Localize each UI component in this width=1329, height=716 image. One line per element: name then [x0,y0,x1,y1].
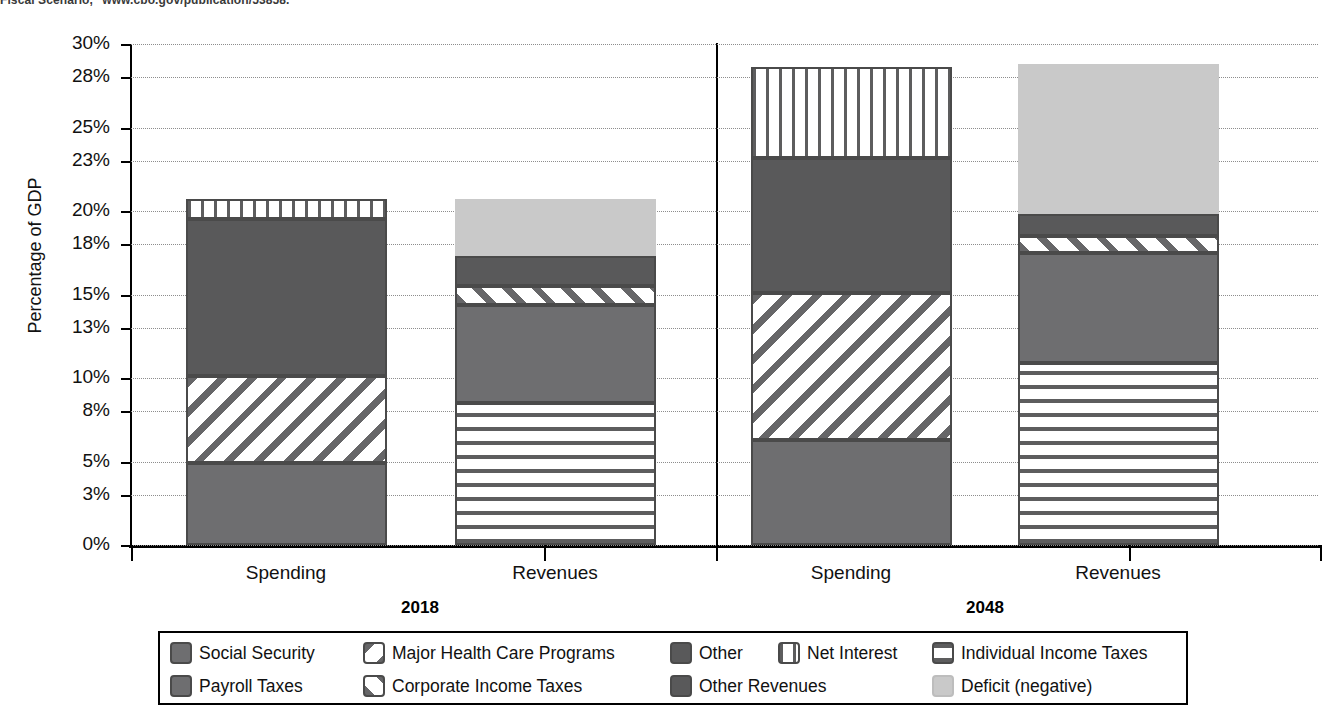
legend-row-2: Payroll TaxesCorporate Income TaxesOther… [170,671,1176,704]
legend-label: Other [699,643,743,664]
solid-medium-gray-swatch [170,675,192,697]
y-tick [121,545,131,547]
y-tick [121,44,131,46]
x-tick [1320,545,1322,561]
legend-item[interactable]: Deficit (negative) [932,675,1092,697]
light-gray-swatch [932,675,954,697]
bar-segment[interactable] [455,403,656,545]
x-group-label: 2018 [340,598,500,618]
stacked-bar[interactable] [186,44,387,545]
x-tick [1129,545,1131,561]
bar-segment[interactable] [186,199,387,219]
bar-segment[interactable] [455,256,656,286]
legend-item[interactable]: Other Revenues [670,675,826,697]
bar-segment[interactable] [1018,64,1219,214]
y-tick-label: 25% [20,116,110,138]
bar-segment[interactable] [751,158,952,293]
y-tick [121,77,131,79]
bar-segment[interactable] [186,463,387,545]
legend-item[interactable]: Individual Income Taxes [932,642,1147,664]
bar-segment[interactable] [751,440,952,545]
y-tick [121,328,131,330]
y-tick-label: 28% [20,65,110,87]
legend-label: Corporate Income Taxes [392,676,582,697]
solid-dark-gray-swatch [670,675,692,697]
chart-area: Percentage of GDP 30%28%25%23%20%18%15%1… [0,0,1329,716]
y-tick [121,244,131,246]
legend-item[interactable]: Major Health Care Programs [363,642,615,664]
y-tick [121,411,131,413]
solid-medium-gray-swatch [170,642,192,664]
legend-item[interactable]: Payroll Taxes [170,675,303,697]
x-tick [544,545,546,561]
group-divider-line [716,43,718,548]
forwardslash-hatch-swatch [363,675,385,697]
stacked-bar[interactable] [751,44,952,545]
legend-label: Major Health Care Programs [392,643,615,664]
horizontal-lines-swatch [932,642,954,664]
y-tick-label: 13% [20,316,110,338]
legend: Social SecurityMajor Health Care Program… [158,631,1188,705]
x-tick [131,545,133,561]
legend-label: Payroll Taxes [199,676,303,697]
x-tick [716,545,718,561]
legend-row-1: Social SecurityMajor Health Care Program… [170,638,1176,671]
legend-item[interactable]: Net Interest [778,642,897,664]
bar-segment[interactable] [186,219,387,376]
y-tick-label: 30% [20,32,110,54]
solid-dark-gray-swatch [670,642,692,664]
stacked-bar[interactable] [455,44,656,545]
y-tick-label: 0% [20,533,110,555]
backslash-hatch-swatch [363,642,385,664]
x-category-label: Spending [186,562,386,584]
y-tick-label: 18% [20,232,110,254]
y-tick-label: 5% [20,450,110,472]
x-category-label: Revenues [455,562,655,584]
y-tick [121,378,131,380]
bar-segment[interactable] [1018,236,1219,253]
y-tick [121,495,131,497]
y-tick [121,211,131,213]
bar-segment[interactable] [751,293,952,440]
y-tick-label: 23% [20,149,110,171]
y-tick [121,128,131,130]
y-tick [121,462,131,464]
y-tick-label: 8% [20,399,110,421]
x-category-label: Revenues [1018,562,1218,584]
legend-label: Other Revenues [699,676,826,697]
bar-segment[interactable] [455,305,656,404]
legend-item[interactable]: Corporate Income Taxes [363,675,582,697]
gridline [131,545,1318,546]
bar-segment[interactable] [1018,253,1219,363]
y-tick-label: 3% [20,483,110,505]
bar-segment[interactable] [186,376,387,463]
y-tick [121,161,131,163]
x-group-label: 2048 [905,598,1065,618]
legend-label: Individual Income Taxes [961,643,1147,664]
y-tick-label: 10% [20,366,110,388]
bar-segment[interactable] [1018,363,1219,545]
legend-item[interactable]: Social Security [170,642,315,664]
legend-label: Social Security [199,643,315,664]
y-tick-label: 15% [20,283,110,305]
bar-segment[interactable] [455,199,656,256]
bar-segment[interactable] [455,286,656,304]
x-category-label: Spending [751,562,951,584]
stacked-bar[interactable] [1018,44,1219,545]
legend-label: Deficit (negative) [961,676,1092,697]
legend-label: Net Interest [807,643,897,664]
y-tick-label: 20% [20,199,110,221]
bar-segment[interactable] [751,67,952,157]
plot-region: 30%28%25%23%20%18%15%13%10%8%5%3%0% [131,44,1318,545]
y-tick [121,295,131,297]
bar-segment[interactable] [1018,214,1219,236]
vertical-lines-swatch [778,642,800,664]
legend-item[interactable]: Other [670,642,743,664]
